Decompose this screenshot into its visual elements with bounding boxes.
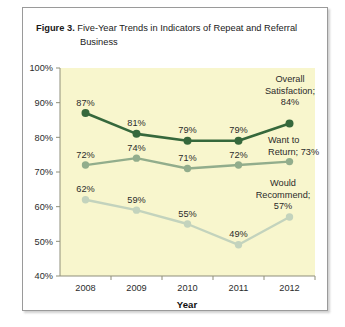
x-axis-tick-label: 2010 xyxy=(177,283,197,293)
data-point-label: 74% xyxy=(127,143,145,153)
data-point xyxy=(184,220,191,227)
x-axis-tick-label: 2011 xyxy=(229,283,249,293)
data-point-label: 87% xyxy=(76,98,94,108)
data-point-label: 49% xyxy=(229,229,247,239)
data-point xyxy=(82,196,89,203)
x-axis-ticks xyxy=(111,276,315,280)
y-axis-tick-label: 60% xyxy=(35,202,53,212)
y-axis-tick-labels: 40%50%60%70%80%90%100% xyxy=(30,63,54,281)
data-point xyxy=(133,154,140,161)
data-point xyxy=(286,158,293,165)
y-axis-tick-label: 80% xyxy=(35,133,53,143)
series-annotation-label: Overall xyxy=(275,74,304,84)
data-point xyxy=(133,206,140,213)
x-axis-tick-label: 2012 xyxy=(279,283,299,293)
x-axis-title: Year xyxy=(177,299,198,310)
data-point-label: 72% xyxy=(76,150,94,160)
data-point-label: 72% xyxy=(229,150,247,160)
y-axis-tick-label: 100% xyxy=(30,63,54,73)
data-point-label: 59% xyxy=(127,195,145,205)
data-point-label: 62% xyxy=(76,184,94,194)
data-point xyxy=(184,137,192,145)
data-point-label: 79% xyxy=(178,125,196,135)
chart-plot-area: 40%50%60%70%80%90%100% 20082009201020112… xyxy=(0,0,345,327)
series-annotation-label: Want to xyxy=(268,135,299,145)
y-axis-tick-label: 40% xyxy=(35,271,53,281)
x-axis-tick-label: 2008 xyxy=(75,283,95,293)
data-point xyxy=(82,161,89,168)
series-annotation-label: Satisfaction; xyxy=(265,86,315,96)
y-axis-tick-label: 50% xyxy=(35,237,53,247)
data-point xyxy=(235,161,242,168)
y-axis-ticks xyxy=(56,68,60,276)
data-point xyxy=(133,130,141,138)
data-point xyxy=(286,119,294,127)
series-annotation-label: 84% xyxy=(281,97,299,107)
data-point xyxy=(82,109,90,117)
data-point-label: 71% xyxy=(178,153,196,163)
series-annotation-label: Would xyxy=(270,178,296,188)
y-axis-tick-label: 90% xyxy=(35,98,53,108)
data-point xyxy=(235,241,242,248)
x-axis-tick-labels: 20082009201020112012 xyxy=(75,283,299,293)
series-annotation-label: Recommend; xyxy=(256,190,311,200)
data-point-label: 55% xyxy=(178,209,196,219)
x-axis-tick-label: 2009 xyxy=(126,283,146,293)
data-point-label: 81% xyxy=(127,118,145,128)
y-axis-tick-label: 70% xyxy=(35,167,53,177)
series-annotation-label: Return; 73% xyxy=(268,147,319,157)
data-point xyxy=(235,137,243,145)
data-point xyxy=(286,213,293,220)
series-annotation-label: 57% xyxy=(274,201,292,211)
data-point xyxy=(184,165,191,172)
data-point-label: 79% xyxy=(229,125,247,135)
